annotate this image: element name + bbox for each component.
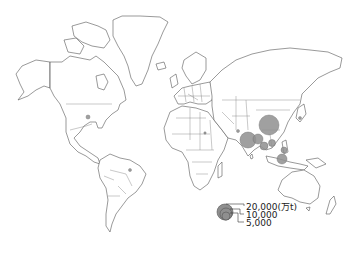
bubble-philippines xyxy=(281,147,287,153)
greenland xyxy=(113,16,168,86)
bubble-pakistan xyxy=(237,130,240,133)
iceland xyxy=(156,62,166,70)
scandinavia xyxy=(182,52,206,84)
new-zealand xyxy=(326,196,336,214)
australia xyxy=(278,170,320,204)
alaska xyxy=(16,60,50,100)
bubble-vietnam xyxy=(269,140,276,147)
world-map xyxy=(0,0,355,257)
north-america xyxy=(50,56,126,164)
legend-symbols xyxy=(217,204,244,222)
sri-lanka xyxy=(250,154,253,159)
bubble-brazil xyxy=(129,169,132,172)
bubble-indonesia xyxy=(277,154,287,164)
legend-label-5000: 5,000 xyxy=(246,219,272,228)
bubble-china xyxy=(259,115,279,135)
tasmania xyxy=(306,207,310,211)
madagascar xyxy=(218,162,222,178)
bubble-usa xyxy=(86,115,90,119)
bubble-bangladesh xyxy=(253,134,263,144)
new-guinea xyxy=(306,158,326,168)
bubble-egypt xyxy=(204,132,206,134)
asia xyxy=(210,48,342,156)
bubble-myanmar-thailand xyxy=(260,142,268,150)
south-america xyxy=(98,154,146,232)
legend-bubble-5000 xyxy=(222,212,230,220)
bubble-japan xyxy=(299,117,302,120)
uk xyxy=(170,74,178,88)
